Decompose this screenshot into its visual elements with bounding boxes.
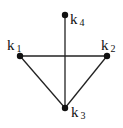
label-k3-text: k bbox=[71, 104, 79, 120]
edge-k2-k3 bbox=[65, 56, 107, 108]
label-k1-sub: 1 bbox=[17, 43, 22, 54]
label-k3-sub: 3 bbox=[81, 110, 86, 121]
edge-k1-k3 bbox=[20, 56, 65, 108]
graph-edges bbox=[0, 0, 123, 128]
graph-diagram: k1 k2 k3 k4 bbox=[0, 0, 123, 128]
label-k2-sub: 2 bbox=[111, 43, 116, 54]
node-k4 bbox=[62, 12, 68, 18]
label-k1-text: k bbox=[7, 37, 15, 53]
label-k2-text: k bbox=[101, 37, 109, 53]
label-k4-text: k bbox=[70, 11, 78, 27]
label-k2: k2 bbox=[101, 38, 116, 56]
node-k3 bbox=[62, 105, 68, 111]
label-k4-sub: 4 bbox=[80, 17, 85, 28]
label-k1: k1 bbox=[7, 38, 22, 56]
label-k4: k4 bbox=[70, 12, 85, 30]
label-k3: k3 bbox=[71, 105, 86, 123]
